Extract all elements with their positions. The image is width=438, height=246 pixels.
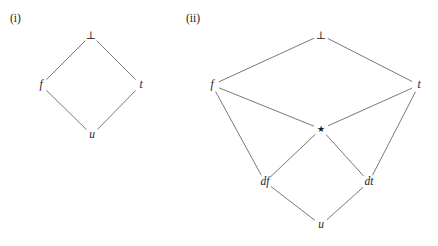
lattice-edge-f-star bbox=[219, 88, 313, 126]
lattice-edge-t-u bbox=[98, 91, 136, 130]
lattice-edge-bot-f bbox=[47, 41, 86, 80]
lattice-edge-t-dt bbox=[373, 92, 416, 175]
figure-root: (i)⊥ftu(ii)⊥ft★dfdtu bbox=[0, 0, 438, 246]
lattice-node-panel-ii-u: u bbox=[317, 219, 325, 231]
panel-label-panel-i: (i) bbox=[10, 13, 21, 25]
lattice-edge-dt-u bbox=[327, 187, 363, 219]
lattice-node-panel-ii-t: t bbox=[416, 79, 421, 91]
lattice-node-panel-ii-df: df bbox=[260, 176, 271, 188]
lattice-node-panel-ii-bot: ⊥ bbox=[315, 30, 327, 41]
lattice-edge-f-df bbox=[216, 92, 261, 175]
lattice-edge-bot-t bbox=[97, 41, 136, 80]
lattice-node-panel-i-bot: ⊥ bbox=[85, 30, 97, 41]
lattice-node-panel-i-u: u bbox=[88, 129, 96, 141]
lattice-edge-df-u bbox=[271, 187, 314, 220]
lattice-edge-star-df bbox=[271, 135, 315, 177]
lattice-edge-t-star bbox=[328, 88, 411, 125]
lattice-node-panel-ii-star: ★ bbox=[315, 125, 327, 134]
lattice-edge-bot-f bbox=[219, 38, 313, 81]
lattice-edge-star-dt bbox=[326, 135, 363, 176]
lattice-node-panel-i-t: t bbox=[138, 79, 143, 91]
lattice-edge-f-u bbox=[47, 91, 87, 130]
lattice-node-panel-ii-f: f bbox=[209, 79, 214, 91]
lattice-edges-layer bbox=[0, 0, 438, 246]
lattice-node-panel-i-f: f bbox=[38, 79, 43, 91]
lattice-edge-bot-t bbox=[328, 39, 412, 82]
lattice-node-panel-ii-dt: dt bbox=[364, 176, 375, 188]
panel-label-panel-ii: (ii) bbox=[186, 13, 200, 25]
